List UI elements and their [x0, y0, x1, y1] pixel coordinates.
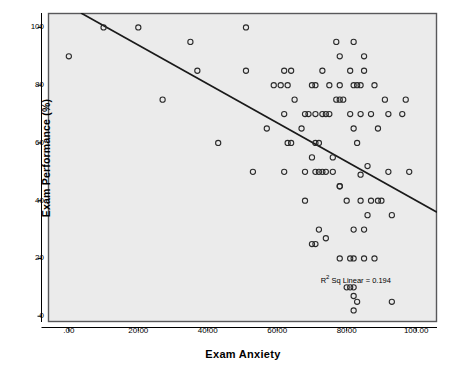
x-tick-label: .00 [39, 327, 99, 335]
y-axis-tick-labels: 020406080100 [8, 0, 44, 372]
x-tick-label: 60.00 [247, 327, 307, 335]
x-axis-tick-labels: .0020.0040.0060.0080.00100.00 [0, 327, 457, 343]
y-tick-label: 100 [16, 23, 44, 31]
scatter-plot-figure: 020406080100 .0020.0040.0060.0080.00100.… [0, 0, 457, 372]
x-tick-label: 20.00 [108, 327, 168, 335]
y-axis-title: Exam Performance (%) [40, 48, 52, 268]
x-tick-label: 100.00 [386, 327, 446, 335]
x-axis-title: Exam Anxiety [48, 348, 438, 360]
r-squared-text: Sq Linear = 0.194 [329, 276, 391, 285]
plot-canvas [0, 0, 457, 372]
x-tick-label: 80.00 [317, 327, 377, 335]
r-squared-annotation: R2 Sq Linear = 0.194 [321, 274, 391, 285]
x-tick-label: 40.00 [178, 327, 238, 335]
y-tick-label: 0 [16, 312, 44, 320]
